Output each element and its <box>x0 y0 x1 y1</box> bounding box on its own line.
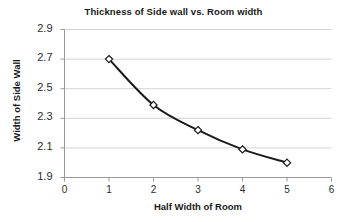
y-tick-label: 1.9 <box>23 170 53 182</box>
x-tick-label: 4 <box>233 184 253 195</box>
data-point-marker <box>239 146 246 153</box>
x-tick-label: 0 <box>55 184 75 195</box>
x-tick-label: 1 <box>99 184 119 195</box>
x-tick-label: 5 <box>277 184 297 195</box>
y-tick-marks <box>61 30 65 178</box>
y-tick-label: 2.7 <box>23 51 53 63</box>
data-point-marker <box>194 127 201 134</box>
data-point-markers <box>105 56 290 167</box>
y-tick-label: 2.9 <box>23 22 53 34</box>
axis-lines <box>65 30 332 178</box>
y-tick-label: 2.1 <box>23 140 53 152</box>
series-line <box>109 59 287 163</box>
y-tick-label: 2.3 <box>23 110 53 122</box>
y-tick-label: 2.5 <box>23 81 53 93</box>
x-tick-label: 2 <box>144 184 164 195</box>
data-point-marker <box>283 159 290 166</box>
chart-container: Thickness of Side wall vs. Room width Wi… <box>0 0 347 222</box>
x-tick-label: 6 <box>322 184 342 195</box>
x-tick-label: 3 <box>188 184 208 195</box>
x-tick-marks <box>65 178 332 182</box>
